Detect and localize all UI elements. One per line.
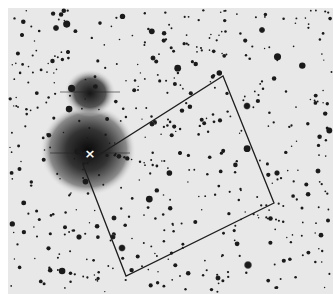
target-marker-icon: × [85,146,96,161]
star-field-canvas: × [0,0,333,294]
star-field-image: × [0,0,333,294]
